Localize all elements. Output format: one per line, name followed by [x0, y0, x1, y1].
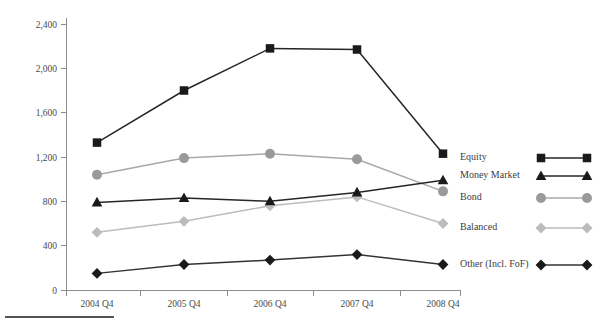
series-equity [93, 44, 448, 158]
legend-swatch [536, 223, 593, 234]
data-point-marker [438, 218, 449, 229]
data-point-marker [438, 259, 449, 270]
data-point-marker [265, 149, 275, 159]
data-point-marker [536, 260, 547, 271]
x-axis-tick-label: 2005 Q4 [168, 299, 201, 309]
data-point-marker [93, 138, 102, 147]
y-axis-tick-label: 800 [43, 197, 58, 207]
y-axis-tick-label: 1,200 [36, 153, 58, 163]
data-point-marker [92, 227, 103, 238]
data-point-marker [92, 268, 103, 279]
data-point-marker [92, 170, 102, 180]
legend-swatch [537, 154, 592, 163]
data-point-marker [438, 175, 449, 185]
legend-label: Money Market [460, 169, 520, 180]
legend-item-bond[interactable]: Bond [460, 191, 592, 203]
y-axis-labels: 04008001,2001,6002,0002,400 [36, 20, 58, 296]
series-bond [92, 149, 448, 197]
data-point-marker [179, 216, 190, 227]
x-axis-tick-label: 2007 Q4 [341, 299, 374, 309]
data-point-marker [583, 154, 592, 163]
data-point-marker [536, 193, 546, 203]
legend-item-other-incl-fof[interactable]: Other (Incl. FoF) [460, 258, 592, 270]
y-axis-tick-label: 2,400 [36, 20, 58, 30]
series-money-market [92, 175, 449, 207]
line-chart: 2004 Q42005 Q42006 Q42007 Q42008 Q4 0400… [0, 0, 600, 329]
data-point-marker [439, 149, 448, 158]
x-axis-tick-label: 2004 Q4 [81, 299, 114, 309]
series-line [97, 154, 443, 192]
y-axis-tick-label: 400 [43, 241, 58, 251]
legend-item-balanced[interactable]: Balanced [460, 221, 592, 233]
data-point-marker [179, 259, 190, 270]
data-point-marker [179, 192, 190, 202]
legend: EquityMoney MarketBondBalancedOther (Inc… [460, 151, 592, 270]
legend-swatch [536, 193, 592, 203]
data-point-marker [536, 223, 547, 234]
data-point-marker [438, 186, 448, 196]
legend-item-equity[interactable]: Equity [460, 151, 591, 162]
legend-label: Other (Incl. FoF) [460, 258, 529, 270]
data-point-marker [266, 44, 275, 53]
data-point-marker [180, 86, 189, 95]
footer-divider [5, 316, 114, 318]
legend-label: Equity [460, 151, 487, 162]
data-point-marker [265, 255, 276, 266]
data-point-marker [352, 249, 363, 260]
x-axis-labels: 2004 Q42005 Q42006 Q42007 Q42008 Q4 [81, 299, 460, 309]
legend-label: Bond [460, 191, 482, 202]
series-other-incl-fof [92, 249, 449, 279]
data-point-marker [582, 260, 593, 271]
legend-swatch [536, 170, 593, 180]
data-point-marker [537, 154, 546, 163]
data-point-marker [353, 45, 362, 54]
legend-item-money-market[interactable]: Money Market [460, 169, 592, 180]
data-point-marker [582, 193, 592, 203]
series-line [97, 48, 443, 153]
x-axis-tick-label: 2006 Q4 [254, 299, 287, 309]
chart-container: 2004 Q42005 Q42006 Q42007 Q42008 Q4 0400… [0, 0, 600, 329]
data-point-marker [582, 223, 593, 234]
data-point-marker [352, 154, 362, 164]
y-axis-tick-label: 1,600 [36, 108, 58, 118]
series-layer [92, 44, 449, 279]
legend-swatch [536, 260, 593, 271]
x-axis-tick-label: 2008 Q4 [427, 299, 460, 309]
y-axis-tick-label: 2,000 [36, 64, 58, 74]
data-point-marker [179, 153, 189, 163]
axes [61, 18, 460, 296]
y-axis-tick-label: 0 [52, 286, 57, 296]
legend-label: Balanced [460, 221, 497, 232]
